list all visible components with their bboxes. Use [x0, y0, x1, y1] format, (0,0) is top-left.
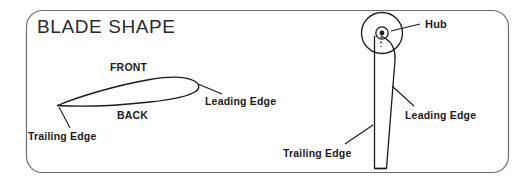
leader-leading-edge-right: [392, 86, 414, 106]
leader-trailing-edge-right: [345, 125, 373, 144]
label-leading-edge-left: Leading Edge: [205, 96, 276, 107]
airfoil-back-surface: [58, 91, 197, 106]
figure-title: BLADE SHAPE: [37, 17, 176, 36]
label-leading-edge-right: Leading Edge: [405, 110, 476, 121]
label-front: FRONT: [110, 62, 147, 73]
airfoil-front-surface: [58, 77, 199, 105]
blade-shape-figure: BLADE SHAPE FRONT BACK Trailing Edge Lea…: [0, 0, 530, 195]
leader-trailing-edge-left: [59, 107, 70, 128]
label-back: BACK: [117, 110, 148, 121]
hub-center-bore: [380, 31, 385, 36]
leader-leading-edge-left: [198, 84, 222, 94]
label-trailing-edge-left: Trailing Edge: [28, 131, 97, 142]
blade-outline: [375, 36, 396, 169]
leader-hub: [391, 24, 420, 31]
label-trailing-edge-right: Trailing Edge: [283, 148, 352, 159]
label-hub: Hub: [425, 19, 447, 30]
